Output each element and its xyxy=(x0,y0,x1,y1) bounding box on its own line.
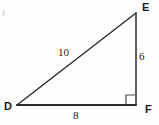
right-angle-marker xyxy=(126,95,135,104)
side-de-line xyxy=(17,13,136,105)
side-length-label-df: 8 xyxy=(73,110,79,121)
triangle-figure xyxy=(0,0,159,125)
geometry-diagram: D E F 10 6 8 xyxy=(0,0,159,125)
side-length-label-de: 10 xyxy=(58,47,69,58)
vertex-label-e: E xyxy=(142,2,149,13)
vertex-label-d: D xyxy=(4,101,12,112)
vertex-label-f: F xyxy=(145,104,152,115)
side-length-label-ef: 6 xyxy=(139,51,145,62)
